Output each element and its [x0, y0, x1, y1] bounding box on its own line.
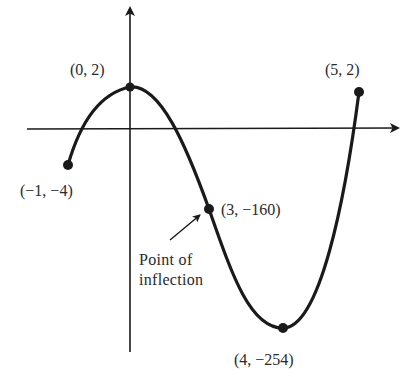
- annotation-line-1: Point of: [139, 250, 203, 270]
- point-inflection: [204, 204, 214, 214]
- point-right-endpoint: [354, 87, 364, 97]
- inflection-annotation: Point of inflection: [139, 250, 203, 290]
- label-relative-max: (0, 2): [70, 62, 105, 78]
- function-graph: (−1, −4) (0, 2) (3, −160) (4, −254) (5, …: [0, 0, 412, 377]
- point-relative-min: [278, 323, 288, 333]
- annotation-line-2: inflection: [139, 270, 203, 290]
- label-relative-min: (4, −254): [234, 352, 294, 368]
- label-inflection-point: (3, −160): [221, 202, 281, 218]
- point-relative-max: [126, 83, 135, 92]
- inflection-arrow-icon: [170, 215, 200, 240]
- point-left-endpoint: [63, 160, 73, 170]
- label-left-endpoint: (−1, −4): [20, 183, 73, 199]
- label-right-endpoint: (5, 2): [325, 62, 360, 78]
